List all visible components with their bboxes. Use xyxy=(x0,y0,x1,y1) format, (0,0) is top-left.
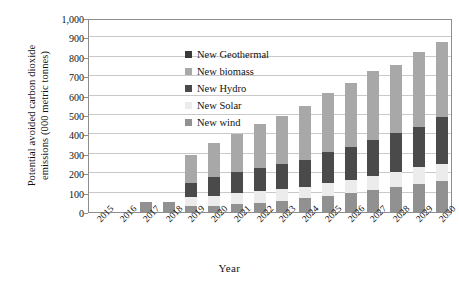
bar-segment-new-solar xyxy=(185,197,197,206)
bar-series-group xyxy=(89,20,451,212)
bar-segment-new-solar xyxy=(413,167,425,183)
bar-segment-new-hydro xyxy=(436,117,448,164)
bar-segment-new-hydro xyxy=(345,147,357,180)
y-axis-tick-label: 500 xyxy=(24,111,84,122)
y-axis-tick-label: 900 xyxy=(24,33,84,44)
y-axis-tick-label: 0 xyxy=(24,208,84,219)
bar-segment-new-hydro xyxy=(299,160,311,187)
legend-item-label: New wind xyxy=(197,117,240,128)
bar-segment-new-solar xyxy=(322,183,334,196)
legend-swatch-icon xyxy=(185,68,192,75)
y-axis-tick-label: 300 xyxy=(24,149,84,160)
bar-2025[interactable] xyxy=(322,93,334,212)
legend-item-new-wind[interactable]: New wind xyxy=(185,114,269,131)
bar-2026[interactable] xyxy=(345,83,357,212)
y-axis-tick-mark xyxy=(84,213,88,214)
bar-segment-new-hydro xyxy=(208,177,220,195)
bar-2019[interactable] xyxy=(185,155,197,212)
chart-container: Potential avoided carbon dioxide emissio… xyxy=(0,0,459,286)
bar-2028[interactable] xyxy=(390,65,402,212)
bar-segment-new-biomass xyxy=(322,93,334,152)
bar-segment-new-hydro xyxy=(367,140,379,176)
bar-segment-new-hydro xyxy=(390,133,402,172)
bar-segment-new-biomass xyxy=(345,83,357,147)
bar-segment-new-biomass xyxy=(390,65,402,134)
legend-item-new-biomass[interactable]: New biomass xyxy=(185,63,269,80)
chart-legend: New GeothermalNew biomassNew HydroNew So… xyxy=(185,46,269,131)
legend-item-new-solar[interactable]: New Solar xyxy=(185,97,269,114)
legend-item-label: New Solar xyxy=(197,100,242,111)
bar-segment-new-biomass xyxy=(208,143,220,177)
bar-segment-new-hydro xyxy=(254,168,266,190)
bar-segment-new-biomass xyxy=(276,116,288,165)
legend-item-new-hydro[interactable]: New Hydro xyxy=(185,80,269,97)
bar-segment-new-hydro xyxy=(231,172,243,192)
bar-segment-new-solar xyxy=(436,164,448,181)
legend-item-label: New biomass xyxy=(197,66,254,77)
bar-segment-new-biomass xyxy=(436,42,448,117)
bar-segment-new-hydro xyxy=(276,164,288,188)
bar-segment-new-solar xyxy=(231,193,243,205)
bar-segment-new-solar xyxy=(390,172,402,187)
legend-swatch-icon xyxy=(185,119,192,126)
bar-segment-new-hydro xyxy=(185,183,197,198)
bar-segment-new-solar xyxy=(367,176,379,190)
bar-segment-new-solar xyxy=(276,189,288,202)
y-axis-tick-label: 700 xyxy=(24,72,84,83)
bar-2020[interactable] xyxy=(208,143,220,212)
bar-segment-new-solar xyxy=(299,187,311,199)
legend-swatch-icon xyxy=(185,85,192,92)
bar-segment-new-hydro xyxy=(413,127,425,168)
legend-item-label: New Hydro xyxy=(197,83,246,94)
bar-segment-new-solar xyxy=(345,180,357,193)
y-axis-tick-label: 200 xyxy=(24,169,84,180)
legend-item-new-geothermal[interactable]: New Geothermal xyxy=(185,46,269,63)
plot-area: New GeothermalNew biomassNew HydroNew So… xyxy=(88,19,452,213)
bar-segment-new-solar xyxy=(208,196,220,207)
legend-swatch-icon xyxy=(185,102,192,109)
y-axis-tick-label: 1,000 xyxy=(24,14,84,25)
bar-segment-new-biomass xyxy=(367,71,379,140)
bar-2029[interactable] xyxy=(413,52,425,212)
y-axis-tick-label: 100 xyxy=(24,188,84,199)
bar-2023[interactable] xyxy=(276,116,288,212)
bar-segment-new-biomass xyxy=(231,134,243,172)
bar-segment-new-biomass xyxy=(299,106,311,159)
bar-segment-new-hydro xyxy=(322,152,334,183)
y-axis-tick-label: 600 xyxy=(24,91,84,102)
legend-swatch-icon xyxy=(185,51,192,58)
bar-2021[interactable] xyxy=(231,134,243,212)
bar-segment-new-biomass xyxy=(413,52,425,127)
bar-2027[interactable] xyxy=(367,71,379,212)
y-axis-tick-label: 400 xyxy=(24,130,84,141)
bar-2024[interactable] xyxy=(299,106,311,212)
bar-2022[interactable] xyxy=(254,124,266,212)
x-axis-title: Year xyxy=(0,262,459,274)
bar-segment-new-solar xyxy=(254,191,266,204)
y-axis-tick-label: 800 xyxy=(24,52,84,63)
bar-segment-new-biomass xyxy=(185,155,197,183)
legend-item-label: New Geothermal xyxy=(197,49,269,60)
bar-2030[interactable] xyxy=(436,42,448,212)
